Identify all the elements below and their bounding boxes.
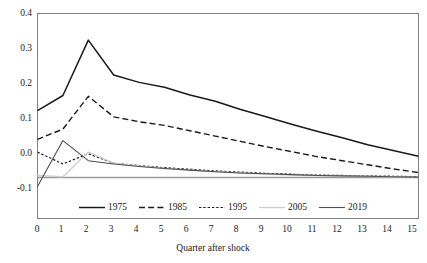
ytick-label--0.1: -0.1 (1, 184, 32, 194)
xtick-label-6: 6 (177, 225, 195, 235)
xtick-label-4: 4 (127, 225, 145, 235)
xtick-label-13: 13 (351, 225, 373, 235)
legend-label-2005: 2005 (288, 203, 307, 213)
xtick-label-7: 7 (202, 225, 220, 235)
x-axis-title: Quarter after shock (153, 244, 273, 254)
xtick-label-14: 14 (376, 225, 398, 235)
xtick-label-2: 2 (77, 225, 95, 235)
xtick-label-11: 11 (301, 225, 323, 235)
xtick-label-9: 9 (252, 225, 270, 235)
ytick-label-0.1: 0.1 (4, 114, 32, 124)
legend-label-1985: 1985 (168, 203, 187, 213)
xtick-label-5: 5 (152, 225, 170, 235)
legend-label-1975: 1975 (108, 203, 127, 213)
xtick-label-0: 0 (28, 225, 46, 235)
legend-label-2019: 2019 (348, 203, 367, 213)
ytick-label-0.4: 0.4 (4, 9, 32, 19)
xtick-label-15: 15 (401, 225, 423, 235)
ytick-label-0.0: 0.0 (4, 149, 32, 159)
legend-label-1995: 1995 (228, 203, 247, 213)
xtick-label-8: 8 (227, 225, 245, 235)
ytick-label-0.2: 0.2 (4, 79, 32, 89)
xtick-label-1: 1 (52, 225, 70, 235)
xtick-label-10: 10 (276, 225, 298, 235)
ytick-label-0.3: 0.3 (4, 44, 32, 54)
xtick-label-3: 3 (102, 225, 120, 235)
chart-figure: 0.4 0.3 0.2 0.1 0.0 -0.1 0 1 2 3 4 5 6 7… (0, 0, 427, 263)
xtick-label-12: 12 (326, 225, 348, 235)
